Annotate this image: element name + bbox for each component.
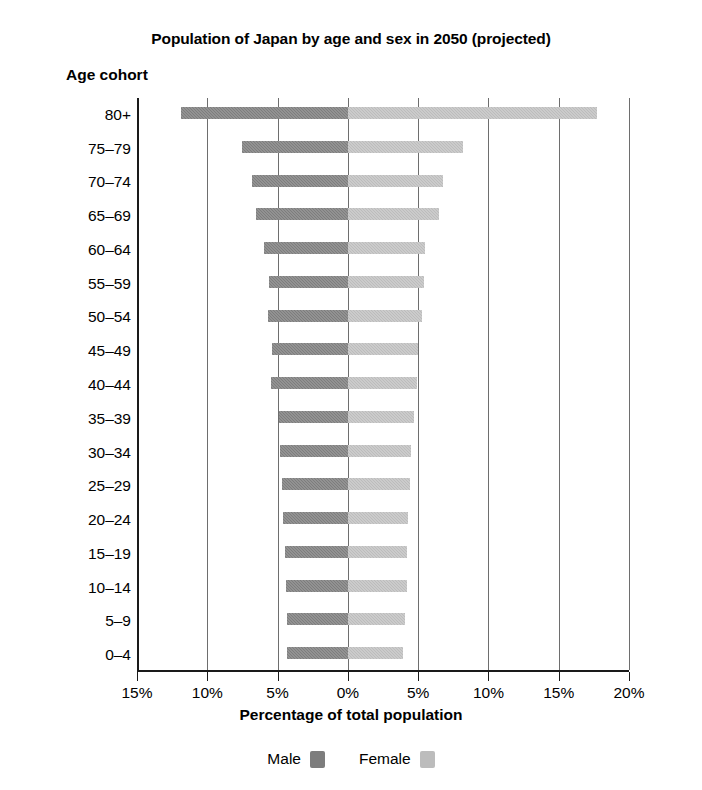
x-tick-label: 5% [248, 684, 308, 702]
y-tick-label: 20–24 [11, 512, 131, 528]
y-tick-label: 65–69 [11, 208, 131, 224]
y-tick-label: 60–64 [11, 242, 131, 258]
y-axis-title: Age cohort [66, 66, 148, 84]
bar-female [348, 512, 408, 524]
x-tick [559, 672, 560, 681]
bar-male [287, 613, 347, 625]
bar-female [348, 411, 414, 423]
bar-male [269, 276, 348, 288]
y-tick-label: 0–4 [11, 647, 131, 663]
chart-title: Population of Japan by age and sex in 20… [0, 30, 702, 48]
x-tick [348, 672, 349, 681]
bar-female [348, 343, 418, 355]
y-tick-label: 70–74 [11, 174, 131, 190]
x-axis-spine [137, 670, 629, 672]
bar-male [268, 310, 348, 322]
y-tick-label: 45–49 [11, 343, 131, 359]
bar-male [287, 647, 347, 659]
bar-female [348, 107, 597, 119]
bar-female [348, 445, 411, 457]
bar-male [264, 242, 348, 254]
legend-label: Female [359, 750, 411, 768]
bar-row [137, 166, 629, 200]
bar-female [348, 478, 410, 490]
bar-female [348, 647, 403, 659]
bar-row [137, 334, 629, 368]
x-tick [488, 672, 489, 681]
y-tick-label: 55–59 [11, 276, 131, 292]
bar-male [280, 445, 347, 457]
bar-male [271, 377, 348, 389]
bar-row [137, 98, 629, 132]
bar-male [282, 478, 348, 490]
bar-row [137, 537, 629, 571]
y-tick-label: 80+ [11, 107, 131, 123]
gridline [629, 98, 630, 670]
y-tick-label: 10–14 [11, 580, 131, 596]
bar-row [137, 132, 629, 166]
y-tick-label: 50–54 [11, 309, 131, 325]
x-tick [629, 672, 630, 681]
bar-row [137, 267, 629, 301]
legend-item: Female [359, 750, 435, 768]
y-tick-label: 5–9 [11, 613, 131, 629]
bar-female [348, 310, 423, 322]
x-tick [207, 672, 208, 681]
y-tick-label: 15–19 [11, 546, 131, 562]
bar-female [348, 546, 407, 558]
plot-area: 15%10%5%0%5%10%15%20% [137, 98, 629, 672]
y-axis-tick-labels: 80+75–7970–7465–6960–6455–5950–5445–4940… [7, 98, 131, 672]
y-axis-spine [137, 98, 139, 672]
bar-row [137, 301, 629, 335]
legend-swatch [420, 751, 435, 768]
bar-male [242, 141, 347, 153]
bar-female [348, 613, 406, 625]
bar-row [137, 469, 629, 503]
bar-row [137, 436, 629, 470]
y-tick-label: 75–79 [11, 141, 131, 157]
legend-item: Male [267, 750, 325, 768]
bar-male [286, 580, 348, 592]
bar-male [252, 175, 348, 187]
bar-male [279, 411, 348, 423]
x-axis-title: Percentage of total population [0, 706, 702, 724]
x-tick-label: 10% [177, 684, 237, 702]
bar-female [348, 175, 444, 187]
x-tick-label: 10% [458, 684, 518, 702]
y-tick-label: 25–29 [11, 478, 131, 494]
bar-female [348, 141, 463, 153]
bar-male [256, 208, 347, 220]
x-tick-label: 0% [318, 684, 378, 702]
chart-legend: MaleFemale [0, 750, 702, 768]
y-tick-label: 30–34 [11, 445, 131, 461]
y-tick-label: 35–39 [11, 411, 131, 427]
x-tick-label: 15% [529, 684, 589, 702]
bar-female [348, 208, 439, 220]
y-tick-label: 40–44 [11, 377, 131, 393]
legend-label: Male [267, 750, 301, 768]
bar-row [137, 571, 629, 605]
bar-male [181, 107, 348, 119]
x-tick [418, 672, 419, 681]
x-tick-label: 20% [599, 684, 659, 702]
bar-male [272, 343, 348, 355]
bar-male [285, 546, 348, 558]
bar-row [137, 638, 629, 672]
bar-row [137, 233, 629, 267]
bar-female [348, 377, 417, 389]
bar-female [348, 242, 425, 254]
bar-row [137, 604, 629, 638]
x-tick-label: 15% [107, 684, 167, 702]
population-pyramid-figure: Population of Japan by age and sex in 20… [0, 0, 702, 790]
bar-row [137, 503, 629, 537]
bar-row [137, 368, 629, 402]
x-tick-label: 5% [388, 684, 448, 702]
x-tick [278, 672, 279, 681]
legend-swatch [310, 751, 325, 768]
bar-row [137, 402, 629, 436]
bar-row [137, 199, 629, 233]
bar-female [348, 580, 407, 592]
bar-male [283, 512, 348, 524]
bar-female [348, 276, 424, 288]
x-tick [137, 672, 138, 681]
